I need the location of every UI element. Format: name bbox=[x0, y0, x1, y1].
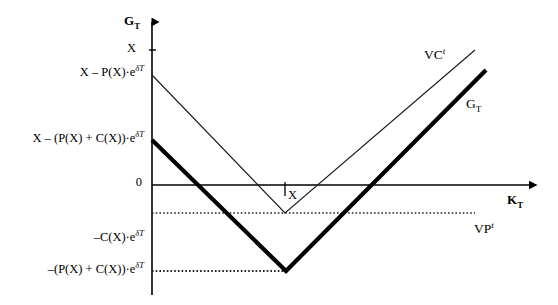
curve-label-vp-base: VP bbox=[474, 221, 491, 236]
x-label-strike-text: X bbox=[288, 188, 297, 202]
payoff-diagram-figure: GT KT X X – P(X)·eδT X – (P(X) + C(X))·e… bbox=[0, 0, 558, 305]
y-label-minus-pc-exponent: δT bbox=[135, 260, 144, 270]
y-label-minus-c-text: –C(X)·e bbox=[94, 230, 136, 244]
y-label-x-minus-p: X – P(X)·eδT bbox=[8, 66, 144, 79]
curve-label-gt: GT bbox=[466, 97, 481, 111]
curve-label-gt-base: G bbox=[466, 96, 476, 111]
curve-label-vc-sup: t bbox=[443, 46, 446, 56]
y-label-zero: 0 bbox=[100, 176, 142, 189]
curve-gt bbox=[152, 70, 486, 271]
y-label-zero-text: 0 bbox=[136, 175, 142, 189]
y-label-x-minus-pc-exponent: δT bbox=[135, 129, 144, 139]
y-label-strike: X bbox=[84, 42, 136, 55]
curve-label-vp: VPt bbox=[474, 222, 494, 236]
curve-label-vp-sup: t bbox=[491, 220, 494, 230]
y-label-minus-pc: –(P(X) + C(X))·eδT bbox=[2, 263, 144, 276]
y-label-minus-pc-text: –(P(X) + C(X))·e bbox=[48, 262, 136, 276]
curve-label-gt-sub: T bbox=[476, 104, 482, 114]
x-axis-title-base: K bbox=[507, 192, 517, 207]
x-label-strike: X bbox=[288, 189, 297, 202]
curve-label-vc-base: VC bbox=[424, 47, 443, 62]
y-label-minus-c: –C(X)·eδT bbox=[26, 231, 144, 244]
y-label-minus-c-exponent: δT bbox=[135, 228, 144, 238]
x-axis-title: KT bbox=[507, 193, 523, 206]
y-axis-title: GT bbox=[124, 14, 140, 27]
y-label-strike-text: X bbox=[127, 41, 136, 55]
y-label-x-minus-p-exponent: δT bbox=[135, 63, 144, 73]
curve-label-vc: VCt bbox=[424, 48, 445, 62]
y-label-x-minus-pc: X – (P(X) + C(X))·eδT bbox=[2, 132, 144, 145]
y-axis-title-sub: T bbox=[134, 21, 140, 31]
y-axis-title-base: G bbox=[124, 13, 134, 28]
y-label-x-minus-p-text: X – P(X)·e bbox=[80, 65, 136, 79]
y-label-x-minus-pc-text: X – (P(X) + C(X))·e bbox=[32, 131, 135, 145]
x-axis-title-sub: T bbox=[517, 200, 523, 210]
